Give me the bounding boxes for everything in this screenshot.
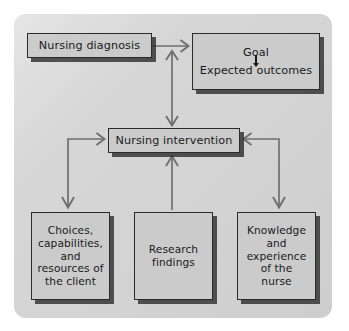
connector-choices-to-intervention	[62, 133, 105, 208]
node-goal-expected-outcomes[interactable]: Goal Expected outcomes	[192, 33, 320, 90]
node-choices-capabilities-resources[interactable]: Choices, capabilities, and resources of …	[31, 212, 110, 300]
node-label-line: nurse	[261, 275, 291, 288]
node-knowledge-experience-nurse[interactable]: Knowledge and experience of the nurse	[237, 212, 316, 300]
node-research-findings[interactable]: Research findings	[134, 212, 213, 300]
node-label-line: and	[266, 237, 286, 250]
node-label-line: Research	[149, 243, 198, 256]
node-label-line: and	[60, 250, 80, 263]
node-label-line: findings	[152, 256, 195, 269]
diagram-figure: Nursing diagnosis Goal Expected outcomes…	[0, 0, 349, 331]
node-nursing-intervention[interactable]: Nursing intervention	[108, 128, 240, 153]
node-label-line: resources of	[37, 262, 103, 275]
node-label: Nursing diagnosis	[39, 39, 140, 53]
node-label-line: of the	[261, 262, 293, 275]
node-label-line: capabilities,	[38, 237, 103, 250]
node-label: Nursing intervention	[116, 134, 233, 148]
connector-goal-intervention-link	[166, 51, 178, 126]
node-label-line: experience	[247, 250, 307, 263]
connector-diagnosis-to-goal	[152, 40, 189, 52]
connector-knowledge-to-intervention	[244, 133, 286, 208]
connector-research-to-intervention	[166, 156, 178, 210]
node-label-line: the client	[45, 275, 96, 288]
node-nursing-diagnosis[interactable]: Nursing diagnosis	[27, 33, 152, 58]
node-label-line: Knowledge	[247, 224, 306, 237]
node-label-line: Choices,	[48, 224, 94, 237]
